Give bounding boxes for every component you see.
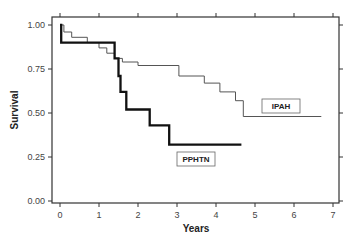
x-tick-label: 4 (213, 210, 218, 220)
x-tick-label: 1 (96, 210, 101, 220)
x-tick-label: 2 (135, 210, 140, 220)
x-tick-label: 5 (252, 210, 257, 220)
x-tick-label: 6 (291, 210, 296, 220)
y-tick-label: 0.50 (27, 108, 45, 118)
y-tick-label: 0.25 (27, 152, 45, 162)
x-tick-label: 0 (57, 210, 62, 220)
x-tick-label: 7 (330, 210, 335, 220)
y-axis-title: Survival (9, 90, 20, 129)
y-tick-label: 0.00 (27, 196, 45, 206)
y-tick-label: 0.75 (27, 64, 45, 74)
ipah-label-text: IPAH (272, 102, 291, 111)
y-tick-label: 1.00 (27, 20, 45, 30)
x-axis-title: Years (183, 223, 210, 234)
survival-chart: 0.000.250.500.751.00 01234567 IPAH PPHTN… (0, 0, 362, 250)
pphtn-survival-curve (60, 25, 241, 145)
x-tick-label: 3 (174, 210, 179, 220)
pphtn-label-text: PPHTN (182, 155, 209, 164)
pphtn-legend-label: PPHTN (177, 152, 215, 166)
ipah-legend-label: IPAH (262, 99, 300, 113)
